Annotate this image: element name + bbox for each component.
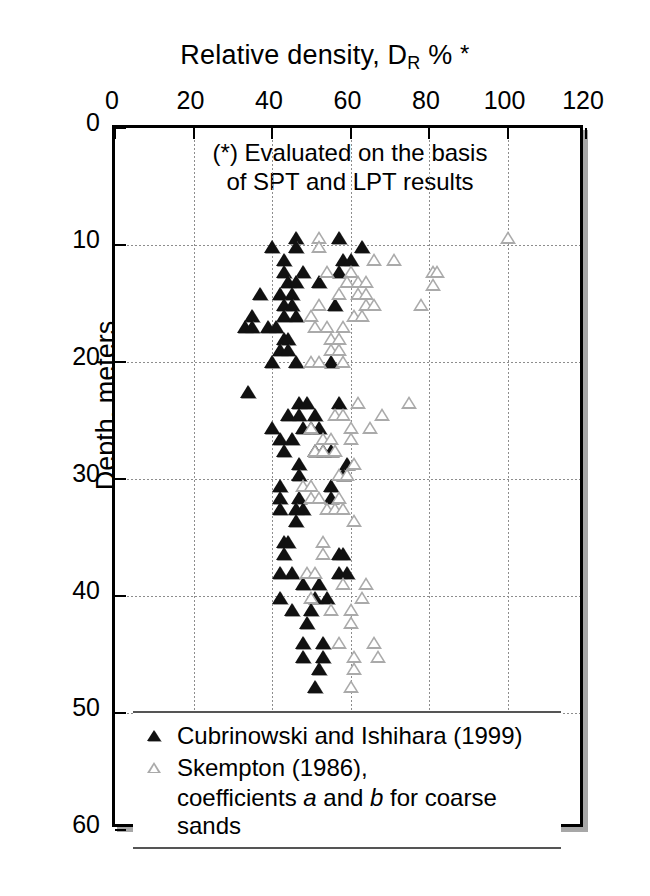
data-point-cubrinowski bbox=[311, 577, 327, 590]
data-point-cubrinowski bbox=[295, 650, 311, 663]
y-tick-mark bbox=[115, 595, 126, 597]
y-tick-mark bbox=[115, 478, 126, 480]
x-tick-label: 60 bbox=[313, 86, 383, 115]
data-point-cubrinowski bbox=[303, 603, 319, 616]
data-point-cubrinowski bbox=[295, 636, 311, 649]
data-point-skempton bbox=[307, 566, 323, 579]
legend-item-cubrinowski[interactable]: Cubrinowski and Ishihara (1999) bbox=[133, 720, 561, 752]
data-point-cubrinowski bbox=[288, 240, 304, 253]
data-point-cubrinowski bbox=[295, 577, 311, 590]
data-point-skempton bbox=[358, 577, 374, 590]
data-point-cubrinowski bbox=[307, 680, 323, 693]
legend-item-skempton[interactable]: Skempton (1986), bbox=[133, 752, 561, 784]
y-tick-label: 10 bbox=[30, 225, 100, 254]
y-tick-mark bbox=[115, 244, 126, 246]
x-tick-mark bbox=[585, 128, 587, 139]
data-point-skempton bbox=[335, 408, 351, 421]
x-tick-mark bbox=[271, 128, 273, 139]
data-point-skempton bbox=[343, 603, 359, 616]
legend-label-skempton-continuation: coefficients a and b for coarse sands bbox=[133, 784, 561, 841]
data-point-skempton bbox=[401, 396, 417, 409]
chart-title-main: Relative density, D bbox=[180, 40, 407, 70]
data-point-cubrinowski bbox=[311, 662, 327, 675]
data-point-skempton bbox=[500, 231, 516, 244]
chart-title-footnote-star: * bbox=[460, 40, 470, 67]
x-tick-label: 80 bbox=[391, 86, 461, 115]
data-point-skempton bbox=[331, 287, 347, 300]
data-point-cubrinowski bbox=[291, 408, 307, 421]
legend-label-skempton: Skempton (1986), bbox=[177, 754, 368, 782]
open-triangle-icon bbox=[147, 761, 165, 775]
y-tick-label: 60 bbox=[30, 810, 100, 839]
data-point-cubrinowski bbox=[272, 502, 288, 515]
data-point-skempton bbox=[303, 591, 319, 604]
filled-triangle-icon bbox=[147, 729, 165, 743]
data-point-skempton bbox=[331, 636, 347, 649]
chart-root: Relative density, DR % * Depth, meters 0… bbox=[0, 0, 650, 896]
data-point-cubrinowski bbox=[252, 287, 268, 300]
data-point-skempton bbox=[335, 355, 351, 368]
y-tick-label: 30 bbox=[30, 459, 100, 488]
data-point-skempton bbox=[374, 408, 390, 421]
y-tick-label: 20 bbox=[30, 342, 100, 371]
horizontal-gridline bbox=[115, 596, 580, 597]
chart-legend: Cubrinowski and Ishihara (1999) Skempton… bbox=[133, 711, 561, 849]
data-point-skempton bbox=[413, 298, 429, 311]
legend-cont-prefix: coefficients bbox=[177, 784, 303, 811]
y-tick-label: 40 bbox=[30, 576, 100, 605]
y-tick-mark bbox=[115, 127, 126, 129]
data-point-cubrinowski bbox=[276, 547, 292, 560]
data-point-cubrinowski bbox=[331, 231, 347, 244]
data-point-cubrinowski bbox=[335, 547, 351, 560]
data-point-skempton bbox=[386, 253, 402, 266]
data-point-skempton bbox=[346, 514, 362, 527]
data-point-skempton bbox=[343, 432, 359, 445]
legend-cont-mid: and bbox=[317, 784, 370, 811]
data-point-cubrinowski bbox=[284, 603, 300, 616]
data-point-skempton bbox=[315, 547, 331, 560]
data-point-cubrinowski bbox=[315, 636, 331, 649]
data-point-skempton bbox=[323, 603, 339, 616]
legend-label-cubrinowski: Cubrinowski and Ishihara (1999) bbox=[177, 722, 523, 750]
data-point-cubrinowski bbox=[288, 514, 304, 527]
data-point-skempton bbox=[350, 396, 366, 409]
data-point-skempton bbox=[346, 662, 362, 675]
data-point-skempton bbox=[319, 265, 335, 278]
chart-title-subscript: R bbox=[407, 53, 420, 73]
y-tick-label: 0 bbox=[30, 108, 100, 137]
data-point-cubrinowski bbox=[244, 320, 260, 333]
y-tick-label: 50 bbox=[30, 693, 100, 722]
horizontal-gridline bbox=[115, 245, 580, 246]
data-point-cubrinowski bbox=[288, 309, 304, 322]
data-point-skempton bbox=[335, 577, 351, 590]
x-tick-label: 120 bbox=[548, 86, 618, 115]
data-point-skempton bbox=[343, 680, 359, 693]
data-point-cubrinowski bbox=[288, 355, 304, 368]
data-point-skempton bbox=[354, 309, 370, 322]
x-tick-label: 100 bbox=[470, 86, 540, 115]
x-tick-mark bbox=[193, 128, 195, 139]
data-point-skempton bbox=[366, 253, 382, 266]
x-tick-mark bbox=[350, 128, 352, 139]
x-tick-mark bbox=[507, 128, 509, 139]
data-point-skempton bbox=[429, 265, 445, 278]
legend-coefficient-b: b bbox=[370, 784, 383, 811]
y-tick-mark bbox=[115, 712, 126, 714]
legend-coefficient-a: a bbox=[303, 784, 316, 811]
data-point-skempton bbox=[366, 636, 382, 649]
data-point-cubrinowski bbox=[299, 616, 315, 629]
data-point-skempton bbox=[362, 421, 378, 434]
chart-title-percent: % bbox=[428, 40, 452, 70]
data-point-skempton bbox=[343, 616, 359, 629]
x-tick-mark bbox=[428, 128, 430, 139]
y-tick-mark bbox=[115, 829, 126, 831]
data-point-skempton bbox=[311, 240, 327, 253]
data-point-skempton bbox=[311, 355, 327, 368]
data-point-cubrinowski bbox=[264, 355, 280, 368]
data-point-skempton bbox=[425, 278, 441, 291]
x-tick-mark bbox=[114, 128, 116, 139]
data-point-cubrinowski bbox=[307, 408, 323, 421]
plot-area: (*) Evaluated on the basis of SPT and LP… bbox=[112, 125, 583, 827]
data-point-cubrinowski bbox=[276, 444, 292, 457]
x-tick-label: 40 bbox=[234, 86, 304, 115]
